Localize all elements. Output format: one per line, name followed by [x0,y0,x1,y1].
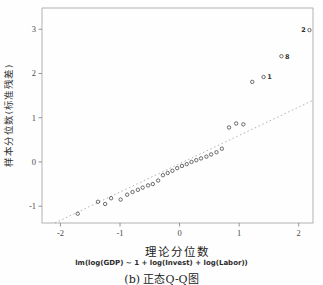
plot-box [42,8,313,223]
data-point [180,164,183,167]
data-point [151,182,154,185]
outlier-label: 2 [301,26,306,34]
data-point [242,123,245,126]
data-point [166,171,169,174]
data-point [209,153,212,156]
outlier-label: 1 [267,73,272,81]
data-point [156,179,159,182]
data-point [185,162,188,165]
data-point [205,155,208,158]
data-point [171,169,174,172]
data-point [141,186,144,189]
data-point [227,126,230,129]
y-tick-label: 0 [32,157,36,167]
data-point [161,174,164,177]
data-point [125,193,128,196]
qq-reference-line [55,100,313,223]
data-point [199,157,202,160]
data-point [176,166,179,169]
x-axis-title: 理论分位数 [42,243,313,259]
data-point [215,151,218,154]
y-tick-label: 2 [32,68,36,78]
data-point [195,158,198,161]
figure-caption: (b) 正态Q-Q图 [0,270,323,285]
y-tick-label: 1 [32,113,36,123]
data-point [234,122,237,125]
x-tick-label: -2 [57,228,64,238]
data-point [280,55,283,58]
data-point [146,184,149,187]
y-tick-label: 3 [32,24,36,34]
data-point [131,190,134,193]
outlier-label: 8 [285,53,290,61]
y-tick-label: -1 [29,201,36,211]
x-tick-label: -1 [116,228,123,238]
data-point [96,200,99,203]
x-tick-label: 2 [297,228,301,238]
y-axis-title: 样本分位数(标准残差) [1,9,15,222]
data-point [251,80,254,83]
data-point [308,28,311,31]
data-point [262,75,265,78]
data-point [103,202,106,205]
model-formula: lm(log(GDP) ~ 1 + log(Invest) + log(Labo… [0,259,323,267]
data-point [119,198,122,201]
qq-plot-canvas: -2-1012-10123182 [0,0,323,242]
data-point [190,160,193,163]
x-tick-label: 1 [237,228,241,238]
data-point [136,188,139,191]
qq-plot-figure: -2-1012-10123182 样本分位数(标准残差) 理论分位数 lm(lo… [0,0,323,285]
data-point [109,197,112,200]
data-point [220,147,223,150]
x-tick-label: 0 [177,228,181,238]
